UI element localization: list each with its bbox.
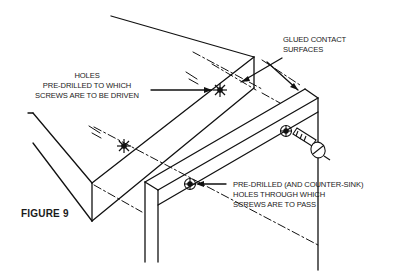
label-holes-driven: HOLES PRE-DRILLED TO WHICH SCREWS ARE TO… — [22, 71, 152, 101]
top-board — [28, 16, 254, 221]
label-holes-pass: PRE-DRILLED (AND COUNTER-SINK) HOLES THR… — [233, 180, 363, 210]
glued-arrows — [241, 58, 298, 90]
label-glued-surfaces: GLUED CONTACT SURFACES — [283, 35, 346, 55]
screw-icon — [293, 128, 330, 160]
figure-title: FIGURE 9 — [21, 208, 69, 219]
